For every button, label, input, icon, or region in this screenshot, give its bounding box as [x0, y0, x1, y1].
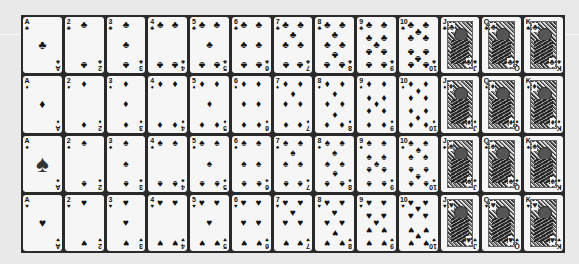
rank-label: 2	[67, 18, 71, 25]
card-q-of-diamonds[interactable]: Q♦Q♦♦♦	[482, 76, 521, 132]
card-a-of-hearts[interactable]: A♥A♥♥	[23, 195, 62, 251]
card-index-bottom-right: 5♣	[222, 59, 228, 71]
rank-label: 6	[265, 184, 269, 191]
spade-icon: ♠	[239, 159, 249, 169]
spade-icon: ♠	[36, 150, 49, 178]
card-index-bottom-right: 4♥	[180, 237, 186, 249]
diamond-icon: ♦	[254, 99, 264, 109]
card-2-of-spades[interactable]: 2♠2♠♠♠	[65, 136, 104, 192]
diamond-icon: ♦	[79, 79, 89, 89]
card-5-of-diamonds[interactable]: 5♦5♦♦♦♦♦♦	[190, 76, 229, 132]
card-7-of-spades[interactable]: 7♠7♠♠♠♠♠♠♠♠	[274, 136, 313, 192]
card-j-of-clubs[interactable]: J♣J♣♣♣	[441, 17, 480, 73]
card-8-of-hearts[interactable]: 8♥8♥♥♥♥♥♥♥♥♥	[315, 195, 354, 251]
card-a-of-clubs[interactable]: A♣A♣♣	[23, 17, 62, 73]
heart-icon: ♥	[379, 198, 389, 208]
club-icon: ♣	[24, 25, 30, 31]
card-5-of-clubs[interactable]: 5♣5♣♣♣♣♣♣	[190, 17, 229, 73]
club-icon: ♣	[532, 23, 538, 32]
club-icon: ♣	[55, 59, 61, 65]
card-j-of-diamonds[interactable]: J♦J♦♦♦	[441, 76, 480, 132]
card-k-of-hearts[interactable]: K♥K♥♥♥	[524, 195, 563, 251]
card-3-of-clubs[interactable]: 3♣3♣♣♣♣	[107, 17, 146, 73]
card-9-of-diamonds[interactable]: 9♦9♦♦♦♦♦♦♦♦♦♦	[357, 76, 396, 132]
club-icon: ♣	[38, 38, 46, 52]
card-8-of-spades[interactable]: 8♠8♠♠♠♠♠♠♠♠♠	[315, 136, 354, 192]
card-10-of-spades[interactable]: 10♠10♠♠♠♠♠♠♠♠♠♠♠	[399, 136, 438, 192]
card-3-of-hearts[interactable]: 3♥3♥♥♥♥	[107, 195, 146, 251]
card-4-of-clubs[interactable]: 4♣4♣♣♣♣♣	[148, 17, 187, 73]
card-a-of-spades[interactable]: A♠A♠♠	[23, 136, 62, 192]
card-j-of-hearts[interactable]: J♥J♥♥♥	[441, 195, 480, 251]
diamond-icon: ♦	[39, 97, 45, 111]
heart-icon: ♥	[295, 238, 305, 248]
spade-icon: ♠	[254, 138, 264, 148]
spade-icon: ♠	[421, 152, 431, 162]
spade-icon: ♠	[24, 144, 30, 150]
card-10-of-diamonds[interactable]: 10♦10♦♦♦♦♦♦♦♦♦♦♦	[399, 76, 438, 132]
card-q-of-clubs[interactable]: Q♣Q♣♣♣	[482, 17, 521, 73]
club-icon: ♣	[204, 40, 214, 50]
card-3-of-spades[interactable]: 3♠3♠♠♠♠	[107, 136, 146, 192]
heart-icon: ♥	[170, 238, 180, 248]
club-icon: ♣	[421, 60, 431, 70]
club-icon: ♣	[170, 60, 180, 70]
diamond-icon: ♦	[55, 119, 61, 125]
card-8-of-clubs[interactable]: 8♣8♣♣♣♣♣♣♣♣♣	[315, 17, 354, 73]
card-5-of-hearts[interactable]: 5♥5♥♥♥♥♥♥	[190, 195, 229, 251]
diamond-icon: ♦	[170, 120, 180, 130]
rank-label: 6	[265, 65, 269, 72]
card-index-bottom-right: 6♠	[264, 178, 270, 190]
card-7-of-hearts[interactable]: 7♥7♥♥♥♥♥♥♥♥	[274, 195, 313, 251]
card-7-of-clubs[interactable]: 7♣7♣♣♣♣♣♣♣♣	[274, 17, 313, 73]
card-a-of-diamonds[interactable]: A♦A♦♦	[23, 76, 62, 132]
diamond-icon: ♦	[421, 93, 431, 103]
spade-icon: ♠	[406, 179, 416, 189]
card-6-of-hearts[interactable]: 6♥6♥♥♥♥♥♥♥	[232, 195, 271, 251]
card-q-of-spades[interactable]: Q♠Q♠♠♠	[482, 136, 521, 192]
card-k-of-clubs[interactable]: K♣K♣♣♣	[524, 17, 563, 73]
pip-area: ♣♣	[72, 21, 97, 69]
card-10-of-clubs[interactable]: 10♣10♣♣♣♣♣♣♣♣♣♣♣	[399, 17, 438, 73]
card-10-of-hearts[interactable]: 10♥10♥♥♥♥♥♥♥♥♥♥♥	[399, 195, 438, 251]
pip-area: ♣♣♣♣♣♣♣♣♣	[364, 21, 389, 69]
card-7-of-diamonds[interactable]: 7♦7♦♦♦♦♦♦♦♦	[274, 76, 313, 132]
heart-icon: ♥	[490, 201, 495, 210]
card-3-of-diamonds[interactable]: 3♦3♦♦♦♦	[107, 76, 146, 132]
card-6-of-clubs[interactable]: 6♣6♣♣♣♣♣♣♣	[232, 17, 271, 73]
heart-icon: ♥	[406, 238, 416, 248]
card-8-of-diamonds[interactable]: 8♦8♦♦♦♦♦♦♦♦♦	[315, 76, 354, 132]
card-index-bottom-right: 6♦	[264, 119, 270, 131]
diamond-icon: ♦	[254, 120, 264, 130]
card-k-of-diamonds[interactable]: K♦K♦♦♦	[524, 76, 563, 132]
card-q-of-hearts[interactable]: Q♥Q♥♥♥	[482, 195, 521, 251]
card-9-of-hearts[interactable]: 9♥9♥♥♥♥♥♥♥♥♥♥	[357, 195, 396, 251]
rank-label: 8	[317, 18, 321, 25]
card-6-of-spades[interactable]: 6♠6♠♠♠♠♠♠♠	[232, 136, 271, 192]
heart-icon: ♥	[364, 198, 374, 208]
spade-icon: ♠	[532, 142, 537, 151]
rank-label: Q	[515, 243, 520, 250]
card-2-of-diamonds[interactable]: 2♦2♦♦♦	[65, 76, 104, 132]
card-5-of-spades[interactable]: 5♠5♠♠♠♠♠♠	[190, 136, 229, 192]
card-index-bottom-right: 6♣	[264, 59, 270, 71]
club-icon: ♣	[421, 33, 431, 43]
card-4-of-hearts[interactable]: 4♥4♥♥♥♥♥	[148, 195, 187, 251]
card-4-of-spades[interactable]: 4♠4♠♠♠♠♠	[148, 136, 187, 192]
card-2-of-hearts[interactable]: 2♥2♥♥♥	[65, 195, 104, 251]
card-9-of-clubs[interactable]: 9♣9♣♣♣♣♣♣♣♣♣♣	[357, 17, 396, 73]
diamond-icon: ♦	[379, 106, 389, 116]
card-index-bottom-right: 5♠	[222, 178, 228, 190]
card-2-of-clubs[interactable]: 2♣2♣♣♣	[65, 17, 104, 73]
card-j-of-spades[interactable]: J♠J♠♠♠	[441, 136, 480, 192]
rank-label: 9	[359, 137, 363, 144]
diamond-icon: ♦	[330, 110, 340, 120]
spade-icon: ♠	[330, 169, 340, 179]
card-index-bottom-right: A♠	[55, 178, 61, 190]
diamond-icon: ♦	[322, 79, 332, 89]
card-4-of-diamonds[interactable]: 4♦4♦♦♦♦♦	[148, 76, 187, 132]
card-9-of-spades[interactable]: 9♠9♠♠♠♠♠♠♠♠♠♠	[357, 136, 396, 192]
card-k-of-spades[interactable]: K♠K♠♠♠	[524, 136, 563, 192]
face-portrait-j: ♣♣	[447, 21, 474, 69]
card-6-of-diamonds[interactable]: 6♦6♦♦♦♦♦♦♦	[232, 76, 271, 132]
